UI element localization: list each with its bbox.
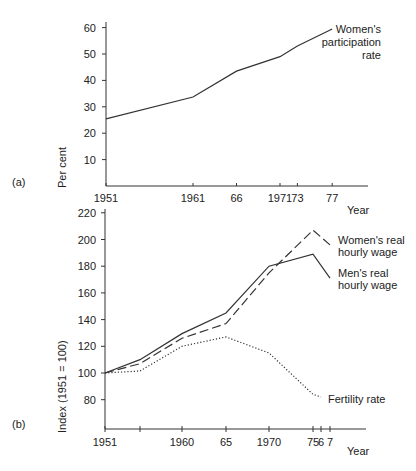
panel-a-y-ticks: 102030405060 — [84, 22, 106, 166]
women-wage-line — [105, 230, 330, 373]
y-tick-label: 10 — [84, 154, 96, 166]
y-tick-label: 200 — [78, 234, 96, 246]
men-wage-label-line2: hourly wage — [338, 279, 397, 291]
fertility-rate-line — [105, 337, 321, 397]
y-tick-label: 40 — [84, 74, 96, 86]
x-tick-label: 77 — [326, 192, 338, 204]
women-wage-label-line1: Women's real — [338, 234, 405, 246]
panel-a-participation-chart: 102030405060 195119616619717377 Year Per… — [12, 22, 381, 216]
y-tick-label: 80 — [84, 394, 96, 406]
participation-label-line3: rate — [362, 49, 381, 61]
panel-b-y-label: Index (1951 = 100) — [56, 340, 68, 433]
y-tick-label: 220 — [78, 207, 96, 219]
men-wage-label-line1: Men's real — [338, 267, 388, 279]
women-wage-label-line2: hourly wage — [338, 246, 397, 258]
panel-b-x-label: Year — [347, 445, 370, 457]
y-tick-label: 140 — [78, 314, 96, 326]
x-tick-label: 7 — [327, 436, 333, 448]
figure: 102030405060 195119616619717377 Year Per… — [0, 0, 416, 471]
y-tick-label: 60 — [84, 22, 96, 34]
y-tick-label: 50 — [84, 48, 96, 60]
men-wage-line — [105, 254, 330, 373]
panel-b-y-ticks: 80100120140160180200220 — [78, 207, 105, 406]
participation-label-line2: participation — [322, 36, 381, 48]
panel-a-tag: (a) — [12, 176, 25, 188]
panel-b-wage-fertility-chart: 80100120140160180200220 1951196065197075… — [12, 207, 405, 457]
y-tick-label: 120 — [78, 340, 96, 352]
x-tick-label: 1960 — [170, 436, 194, 448]
y-tick-label: 20 — [84, 127, 96, 139]
chart-canvas: 102030405060 195119616619717377 Year Per… — [0, 0, 416, 471]
x-tick-label: 6 — [318, 436, 324, 448]
y-tick-label: 180 — [78, 260, 96, 272]
y-tick-label: 100 — [78, 367, 96, 379]
fertility-label: Fertility rate — [328, 393, 385, 405]
y-tick-label: 30 — [84, 101, 96, 113]
x-tick-label: 1951 — [94, 192, 118, 204]
x-tick-label: 1951 — [93, 436, 117, 448]
panel-a-y-label: Per cent — [56, 147, 68, 188]
x-tick-label: 65 — [220, 436, 232, 448]
x-tick-label: 1971 — [268, 192, 292, 204]
panel-b-tag: (b) — [12, 418, 25, 430]
x-tick-label: 1970 — [257, 436, 281, 448]
participation-label-line1: Women's — [336, 23, 382, 35]
women-participation-line — [106, 29, 332, 119]
y-tick-label: 160 — [78, 287, 96, 299]
x-tick-label: 1961 — [181, 192, 205, 204]
panel-a-x-label: Year — [347, 204, 370, 216]
x-tick-label: 66 — [230, 192, 242, 204]
x-tick-label: 73 — [291, 192, 303, 204]
